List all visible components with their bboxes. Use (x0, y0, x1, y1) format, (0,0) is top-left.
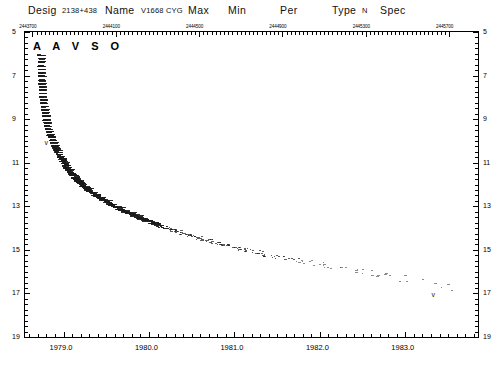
year-tick-label: 1980.0 (135, 343, 158, 352)
data-point (311, 260, 313, 261)
data-point (182, 232, 184, 233)
data-point (177, 231, 179, 232)
data-point (252, 250, 254, 251)
data-point (38, 69, 43, 70)
magnitude-tick-label-right: 9 (483, 115, 487, 122)
data-point (240, 249, 242, 250)
fainter-than-marker: v (44, 139, 48, 146)
tick-left-major (25, 337, 30, 338)
data-point (330, 268, 332, 269)
data-point (245, 250, 247, 251)
jd-tick-label: 2443700 (19, 24, 36, 29)
data-point (171, 231, 174, 232)
magnitude-tick-label-left: 7 (12, 72, 16, 79)
min-label: Min (228, 4, 246, 16)
data-point (42, 106, 47, 107)
data-point (278, 256, 280, 257)
data-point (40, 83, 43, 84)
data-point (87, 188, 93, 189)
spec-label: Spec (380, 4, 406, 16)
data-point (451, 290, 453, 291)
name-value: V1668 CYG (141, 6, 183, 15)
data-point (39, 66, 42, 67)
data-point (319, 264, 322, 265)
magnitude-tick-label-left: 19 (12, 333, 20, 340)
data-point (274, 256, 275, 257)
jd-tick-label: 2444500 (186, 24, 203, 29)
data-point (355, 272, 358, 273)
desig-value: 2138+438 (62, 6, 97, 15)
data-point (196, 239, 197, 240)
data-point (303, 263, 305, 264)
data-point (309, 261, 311, 262)
data-point (324, 267, 325, 268)
data-point (179, 234, 181, 235)
per-label: Per (280, 4, 298, 16)
data-point (447, 284, 450, 285)
data-point (384, 274, 387, 275)
jd-tick-label: 2444100 (103, 24, 120, 29)
data-point (202, 240, 204, 241)
data-point (44, 122, 50, 123)
data-point (257, 253, 260, 254)
data-point (38, 80, 42, 81)
data-point (247, 248, 248, 249)
year-tick-label: 1982.0 (306, 343, 329, 352)
data-point (345, 267, 347, 268)
jd-tick-label: 2444900 (269, 24, 286, 29)
data-point (43, 119, 46, 120)
magnitude-tick-label-right: 15 (483, 246, 491, 253)
data-point (41, 100, 49, 101)
data-point (244, 251, 247, 252)
data-point (40, 103, 47, 104)
data-point (50, 142, 54, 143)
data-point (327, 267, 329, 268)
data-point (49, 137, 56, 138)
data-point (302, 261, 303, 262)
data-point (340, 267, 341, 268)
data-point (190, 235, 191, 236)
data-point (283, 256, 285, 257)
data-point (376, 276, 378, 277)
data-point (44, 115, 52, 116)
data-point (167, 228, 169, 229)
data-point (53, 145, 59, 146)
data-point (288, 258, 290, 259)
magnitude-tick-label-left: 17 (12, 289, 20, 296)
data-point (39, 90, 44, 91)
data-point (252, 252, 253, 253)
data-point (323, 262, 325, 263)
data-point (211, 241, 212, 242)
magnitude-tick-label-left: 13 (12, 202, 20, 209)
type-value: N (362, 6, 368, 15)
data-point (362, 273, 363, 274)
data-point (39, 72, 43, 73)
data-point (136, 218, 139, 219)
data-point (296, 261, 297, 262)
data-point (39, 86, 45, 87)
data-point (262, 251, 265, 252)
magnitude-tick-label-right: 11 (483, 159, 490, 166)
magnitude-tick-label-left: 11 (12, 159, 19, 166)
data-point (217, 244, 218, 245)
magnitude-tick-label-left: 15 (12, 246, 20, 253)
data-point (272, 257, 273, 258)
magnitude-tick-label-right: 5 (483, 28, 487, 35)
data-point (441, 287, 442, 288)
data-point (38, 55, 43, 56)
data-point (44, 125, 49, 126)
data-point (125, 213, 129, 214)
magnitude-tick-label-left: 5 (12, 28, 16, 35)
data-point (250, 249, 251, 250)
data-point (38, 58, 41, 59)
data-point (206, 241, 207, 242)
data-point (238, 250, 239, 251)
data-point (261, 253, 264, 254)
data-point (157, 223, 160, 224)
data-point (263, 256, 265, 257)
data-point (43, 113, 48, 114)
data-point (371, 275, 374, 276)
data-point (323, 264, 326, 265)
data-point (161, 227, 162, 228)
data-point (313, 265, 315, 266)
